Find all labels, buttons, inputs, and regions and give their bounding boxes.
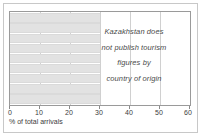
bar [10, 23, 100, 32]
x-tick-label-50: 50 [155, 109, 163, 116]
bar [10, 13, 100, 22]
bar-row [10, 64, 190, 74]
bar [10, 34, 100, 43]
bar-row [10, 53, 190, 63]
x-tick-label-20: 20 [65, 109, 73, 116]
bar [10, 44, 100, 53]
plot-area: Kazakhstan does not publish tourism figu… [9, 11, 191, 106]
chart-figure: Kazakhstan does not publish tourism figu… [0, 0, 203, 137]
x-tick-label-0: 0 [8, 109, 12, 116]
x-tick-label-40: 40 [125, 109, 133, 116]
x-axis-label: % of total arrivals [9, 118, 63, 125]
bar [10, 94, 100, 103]
bar-row [10, 94, 190, 104]
bar-row [10, 23, 190, 33]
bar [10, 64, 100, 73]
x-axis: 0 10 20 30 40 50 60 [9, 106, 191, 118]
bar-row [10, 74, 190, 84]
bar-row [10, 13, 190, 23]
bar-series [10, 12, 190, 105]
x-tick-label-60: 60 [184, 109, 192, 116]
x-tick-label-10: 10 [35, 109, 43, 116]
bar [10, 74, 100, 83]
bar [10, 54, 100, 63]
bar-row [10, 33, 190, 43]
x-tick-label-30: 30 [95, 109, 103, 116]
bar [10, 84, 100, 93]
bar-row [10, 43, 190, 53]
bar-row [10, 84, 190, 94]
